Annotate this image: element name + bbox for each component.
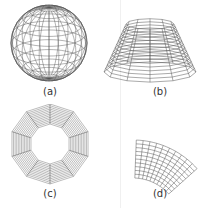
panel-d-label: (d) — [140, 188, 180, 199]
panel-a-label: (a) — [30, 86, 70, 97]
panel-a: (a) — [0, 0, 100, 104]
panel-c-label: (c) — [30, 188, 70, 199]
panel-b: (b) — [100, 0, 201, 104]
panel-d: (d) — [100, 104, 201, 208]
panel-b-label: (b) — [140, 86, 180, 97]
panel-c: (c) — [0, 104, 100, 208]
